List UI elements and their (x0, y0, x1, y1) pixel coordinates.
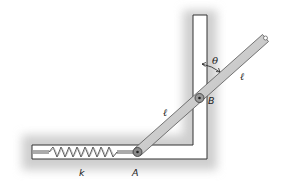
point-a-label: A (131, 167, 139, 178)
mechanism-diagram: θ ℓ B ℓ k A (0, 0, 282, 188)
point-b-label: B (208, 95, 215, 106)
pin-b (195, 94, 204, 103)
theta-label: θ (212, 55, 218, 66)
rod-end-pin (264, 36, 268, 40)
length-lower-label: ℓ (163, 107, 167, 118)
pin-a (133, 148, 142, 157)
length-upper-label: ℓ (240, 71, 244, 82)
spring-constant-label: k (79, 167, 85, 178)
